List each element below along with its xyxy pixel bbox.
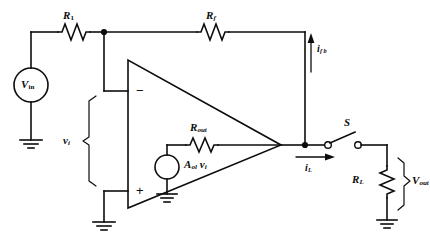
resistor-rf-label: Rf bbox=[206, 10, 216, 22]
vi-bracket bbox=[83, 96, 96, 186]
resistor-rout-symbol bbox=[186, 138, 218, 152]
vout-bracket bbox=[398, 158, 410, 210]
switch-blade bbox=[330, 132, 355, 143]
output-voltage-label: Vout bbox=[412, 175, 429, 187]
feedback-current-label: if b bbox=[317, 44, 327, 55]
resistor-rf-symbol bbox=[197, 24, 229, 40]
input-source-label: Vin bbox=[21, 79, 34, 91]
resistor-r1-label: R1 bbox=[63, 10, 74, 22]
resistor-r1-symbol bbox=[58, 24, 90, 40]
load-resistor-label: RL bbox=[352, 174, 364, 186]
load-current-label: iL bbox=[305, 163, 312, 174]
circuit-diagram: R1 Rf Vin vi − + Rout Aol vi if b iL S R… bbox=[0, 0, 430, 252]
opamp-noninverting-sign: + bbox=[136, 184, 144, 197]
feedback-current-arrow bbox=[308, 33, 315, 72]
noninverting-ground-symbol bbox=[93, 222, 115, 230]
opamp-inverting-sign: − bbox=[136, 84, 144, 97]
load-current-arrow bbox=[296, 154, 335, 161]
dependent-source-symbol bbox=[155, 155, 179, 179]
resistor-rout-label: Rout bbox=[190, 122, 207, 134]
source-ground-symbol bbox=[20, 140, 42, 148]
dependent-source-label: Aol vi bbox=[184, 159, 207, 171]
load-ground-symbol bbox=[377, 220, 397, 228]
switch-label: S bbox=[344, 117, 350, 128]
resistor-rl-symbol bbox=[380, 166, 394, 198]
schematic-svg bbox=[0, 0, 430, 252]
differential-input-label: vi bbox=[63, 135, 70, 147]
